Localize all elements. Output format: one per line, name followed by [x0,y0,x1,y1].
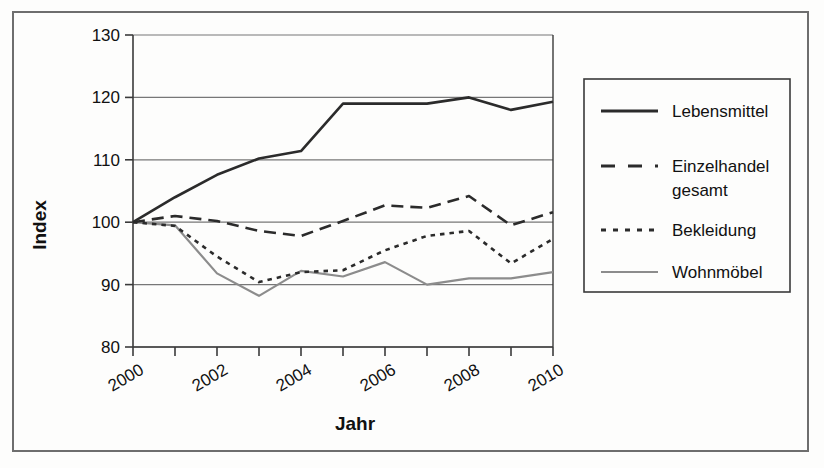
series-group [133,97,553,295]
x-tick-label: 2008 [441,360,483,395]
y-tick-label: 130 [92,26,120,45]
legend-label[interactable]: Einzelhandel [672,157,769,176]
x-axis-title: Jahr [335,413,376,434]
y-axis-ticks: 8090100110120130 [92,26,133,357]
series-line-bekleidung [133,222,553,282]
x-axis-ticks: 200020022004200620082010 [105,347,567,395]
grid-lines [133,35,553,347]
y-tick-label: 90 [101,276,120,295]
series-line-einzelhandel-gesamt [133,196,553,236]
y-tick-label: 110 [93,151,120,170]
legend-label[interactable]: Lebensmittel [672,102,768,121]
y-tick-label: 80 [101,338,120,357]
legend-label[interactable]: Wohnmöbel [672,263,762,282]
page-root: 8090100110120130 20002002200420062008201… [0,0,824,468]
line-chart: 8090100110120130 20002002200420062008201… [0,0,824,468]
x-tick-label: 2002 [189,360,231,395]
y-tick-label: 100 [92,213,120,232]
legend-entries: LebensmittelEinzelhandelgesamtBekleidung… [601,102,769,282]
legend-label[interactable]: Bekleidung [672,221,756,240]
legend-label-line2[interactable]: gesamt [672,181,728,200]
x-tick-label: 2010 [525,360,567,395]
y-axis-title: Index [29,200,50,250]
x-tick-label: 2000 [105,360,147,395]
y-tick-label: 120 [92,88,120,107]
x-tick-label: 2004 [273,360,315,395]
x-tick-label: 2006 [357,360,399,395]
